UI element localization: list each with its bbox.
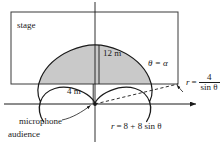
stage-label: stage bbox=[17, 21, 36, 30]
theta-alpha-label: θ = α bbox=[148, 59, 168, 68]
offset-4m-label: 4 m bbox=[67, 87, 81, 96]
cardioid-equation: r = 8 + 8 sin θ bbox=[111, 122, 161, 131]
cardioid-eq-rhs: 8 + 8 sin θ bbox=[124, 122, 162, 131]
cardioid-eq-lhs: r bbox=[111, 122, 115, 131]
line-eq-fraction: 4 sin θ bbox=[199, 73, 220, 93]
line-eq-equals: = bbox=[192, 78, 197, 87]
line-equation: r = 4 sin θ bbox=[186, 73, 220, 93]
line-eq-numerator: 4 bbox=[199, 73, 220, 82]
ray-theta-alpha bbox=[95, 84, 178, 104]
pole-point bbox=[93, 102, 97, 106]
microphone-leader-arrow bbox=[62, 106, 91, 121]
microphone-label: microphone bbox=[19, 117, 62, 126]
cardioid-eq-equals: = bbox=[117, 122, 122, 131]
line-eq-lhs: r bbox=[186, 78, 190, 87]
line-equation-leader-arrow bbox=[177, 85, 183, 92]
figure-container: stage 12 m 4 m θ = α microphone audience… bbox=[0, 0, 223, 145]
audience-label: audience bbox=[8, 130, 40, 139]
line-eq-denominator: sin θ bbox=[199, 82, 220, 92]
height-12m-label: 12 m bbox=[103, 49, 121, 58]
